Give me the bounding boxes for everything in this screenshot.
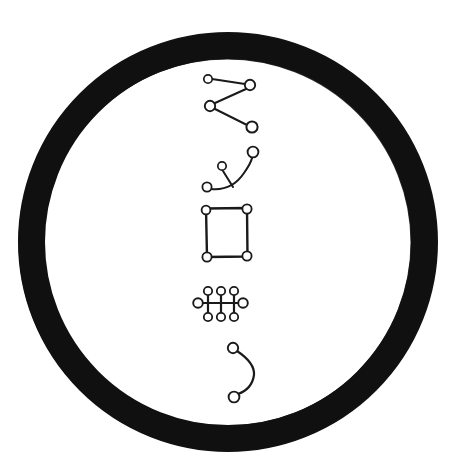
enclosing-circle-group xyxy=(31,46,425,439)
square-node-top-left xyxy=(202,206,211,215)
zigzag-node-3 xyxy=(205,101,215,111)
branched-arc-node-top xyxy=(248,147,259,158)
drawing-canvas xyxy=(0,0,456,472)
branched-arc-node-branch xyxy=(218,162,226,170)
branched-arc-node-left xyxy=(202,182,211,191)
comb-node-left xyxy=(193,298,203,308)
glyph-figure xyxy=(0,0,456,472)
branched-arc-branch xyxy=(223,171,233,187)
zigzag-node-4 xyxy=(246,121,257,132)
comb-node-bottom-3 xyxy=(230,313,238,321)
branched-arc-glyph xyxy=(202,147,258,192)
c-arc-glyph xyxy=(228,343,254,403)
comb-node-top-3 xyxy=(230,287,238,295)
comb-node-bottom-2 xyxy=(217,313,225,321)
square-node-top-right xyxy=(242,204,251,213)
zigzag-node-1 xyxy=(204,75,212,83)
zigzag-node-2 xyxy=(245,80,255,90)
square-node-bottom-right xyxy=(242,251,251,260)
enclosing-circle-texture xyxy=(31,47,423,438)
zigzag-glyph xyxy=(204,75,258,133)
c-arc-curve xyxy=(237,351,254,394)
comb-node-right xyxy=(238,298,248,308)
square-edges xyxy=(206,208,248,257)
c-arc-node-top xyxy=(228,343,238,353)
square-node-bottom-left xyxy=(202,252,211,261)
comb-node-bottom-1 xyxy=(204,313,212,321)
c-arc-node-bottom xyxy=(229,392,240,403)
comb-node-top-2 xyxy=(217,287,225,295)
zigzag-edges xyxy=(212,79,247,125)
comb-glyph xyxy=(193,287,248,321)
comb-node-top-1 xyxy=(204,287,212,295)
square-glyph xyxy=(202,204,252,261)
